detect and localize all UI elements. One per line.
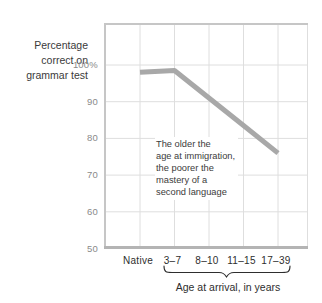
x-axis-brace [160,263,296,281]
plot-area [104,23,308,249]
y-tick-label: 50 [56,243,98,254]
y-axis-title-line-1: Percentage [0,38,88,53]
y-axis-title-line-3: grammar test [0,68,88,83]
annotation-line-5: second language [156,186,235,198]
y-tick-label: 100% [56,59,98,70]
y-tick-label: 60 [56,206,98,217]
annotation-line-2: age at immigration, [156,150,235,162]
y-tick-label: 70 [56,169,98,180]
annotation-line-3: the poorer the [156,162,235,174]
chart-line-svg [104,23,308,249]
annotation-line-1: The older the [156,138,235,150]
y-tick-label: 90 [56,96,98,107]
annotation-line-4: mastery of a [156,174,235,186]
y-tick-label: 80 [56,132,98,143]
annotation: The older the age at immigration, the po… [155,137,238,200]
x-axis-title: Age at arrival, in years [160,281,296,293]
grammar-test-chart: Percentage correct on grammar test 100%9… [0,0,322,303]
x-tick-label: Native [123,255,153,266]
